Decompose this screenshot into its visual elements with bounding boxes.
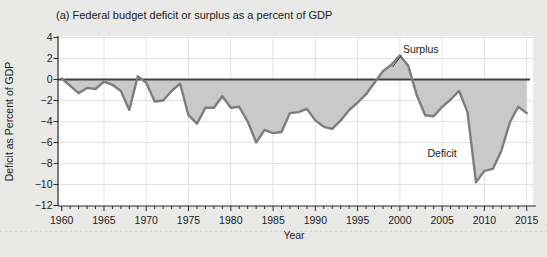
x-tick-label: 1970: [135, 214, 159, 226]
budget-chart-canvas: 1960196519701975198019851990199520002005…: [0, 0, 547, 257]
y-tick-label: −4: [41, 115, 53, 127]
y-tick-label: −8: [41, 157, 53, 169]
surplus-annotation-label: Surplus: [403, 43, 439, 55]
x-tick-label: 1975: [177, 214, 201, 226]
x-tick-label: 1990: [304, 214, 328, 226]
y-axis-title: Deficit as Percent of GDP: [3, 62, 15, 182]
x-axis-title: Year: [283, 229, 305, 241]
deficit-annotation-label: Deficit: [428, 147, 457, 159]
y-axis-ticks: [54, 38, 59, 206]
x-tick-label: 1995: [346, 214, 370, 226]
x-tick-label: 1980: [219, 214, 243, 226]
x-tick-label: 2000: [388, 214, 412, 226]
y-tick-label: −12: [35, 199, 53, 211]
chart-title: (a) Federal budget deficit or surplus as…: [56, 9, 332, 21]
x-tick-label: 2005: [430, 214, 454, 226]
y-tick-label: 4: [47, 31, 53, 43]
budget-deficit-figure: 1960196519701975198019851990199520002005…: [0, 0, 547, 257]
x-tick-label: 2015: [515, 214, 539, 226]
x-axis-ticks: [62, 206, 527, 211]
x-tick-label: 2010: [473, 214, 497, 226]
y-tick-label: −6: [41, 136, 53, 148]
y-tick-label: 2: [47, 52, 53, 64]
y-tick-label: −10: [35, 178, 53, 190]
y-tick-label: 0: [47, 73, 53, 85]
y-tick-label: −2: [41, 94, 53, 106]
x-axis-tick-labels: 1960196519701975198019851990199520002005…: [50, 214, 539, 226]
x-tick-label: 1965: [92, 214, 116, 226]
x-tick-label: 1960: [50, 214, 74, 226]
x-tick-label: 1985: [261, 214, 285, 226]
y-axis-tick-labels: 420−2−4−6−8−10−12: [35, 31, 53, 211]
